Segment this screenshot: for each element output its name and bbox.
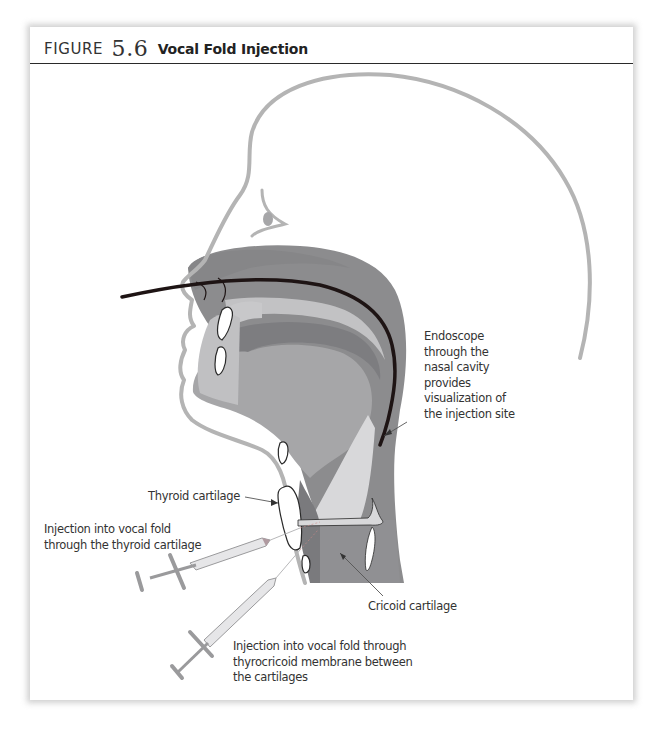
endoscope-label-line: nasal cavity (424, 360, 515, 376)
thumb-rest-1 (137, 573, 142, 590)
thyroid-cartilage-label: Thyroid cartilage (148, 489, 240, 505)
endoscope-label: Endoscope through the nasal cavity provi… (424, 329, 515, 422)
endoscope-label-line: visualization of (424, 391, 515, 407)
injection-thyroid-label-line: Injection into vocal fold (44, 522, 201, 538)
injection-membrane-label-line: thyrocricoid membrane between (233, 655, 412, 671)
syringe-barrel-1 (190, 538, 270, 570)
needle-2 (276, 550, 300, 578)
endoscope-label-line: the injection site (424, 407, 515, 423)
cricoid-cartilage-label: Cricoid cartilage (368, 599, 457, 615)
endoscope-label-line: through the (424, 345, 515, 361)
injection-thyroid-label: Injection into vocal fold through the th… (44, 522, 201, 553)
injection-membrane-label: Injection into vocal fold through thyroc… (233, 639, 412, 686)
thyroid-cartilage (278, 486, 302, 550)
vocal-fold-injection-illustration (0, 0, 664, 736)
injection-membrane-label-line: the cartilages (233, 670, 412, 686)
syringe-barrel-2 (204, 578, 276, 647)
eye-icon (252, 190, 285, 236)
injection-thyroid-label-line: through the thyroid cartilage (44, 538, 201, 554)
endoscope-label-line: provides (424, 376, 515, 392)
thyroid-cartilage-label-line: Thyroid cartilage (148, 489, 240, 505)
cricoid-cartilage-label-line: Cricoid cartilage (368, 599, 457, 615)
injection-membrane-label-line: Injection into vocal fold through (233, 639, 412, 655)
thyroid-arrowhead (271, 499, 278, 506)
hyoid-bone (278, 442, 288, 464)
cricoid-cartilage-front (302, 555, 310, 573)
endoscope-label-line: Endoscope (424, 329, 515, 345)
